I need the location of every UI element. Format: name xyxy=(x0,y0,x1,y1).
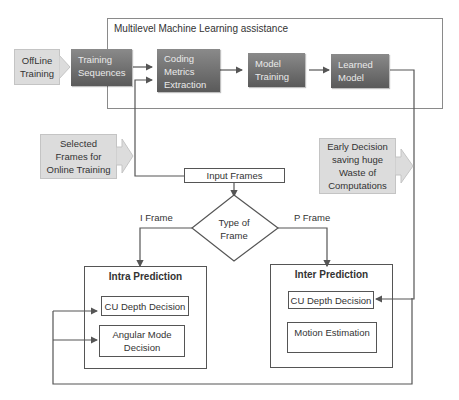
selected-frames-line-1: Selected xyxy=(60,137,97,150)
coding-metrics-line-3: Extraction xyxy=(164,78,213,91)
offline-training-box: OffLine Training xyxy=(14,49,60,85)
coding-metrics-extraction-box: Coding Metrics Extraction xyxy=(157,49,220,92)
input-frames-label: Input Frames xyxy=(207,169,263,182)
selected-frames-line-2: Frames for xyxy=(56,150,102,163)
early-decision-line-2: saving huge xyxy=(332,153,383,166)
early-decision-line-1: Early Decision xyxy=(327,140,388,153)
i-frame-label: I Frame xyxy=(140,211,173,224)
inter-prediction-title: Inter Prediction xyxy=(271,269,392,280)
model-training-line-2: Training xyxy=(255,70,298,83)
model-training-box: Model Training xyxy=(248,53,305,87)
model-training-line-1: Model xyxy=(255,57,298,70)
motion-estimation-box: Motion Estimation xyxy=(287,322,377,353)
learned-model-line-1: Learned xyxy=(338,58,382,71)
type-of-frame-line-1: Type of xyxy=(204,216,264,229)
selected-frames-line-3: Online Training xyxy=(47,163,111,176)
selected-frames-box: Selected Frames for Online Training xyxy=(40,134,117,179)
angular-mode-line-1: Angular Mode xyxy=(112,328,171,341)
intra-prediction-title: Intra Prediction xyxy=(85,271,206,282)
input-frames-box: Input Frames xyxy=(184,168,285,183)
early-decision-line-4: Computations xyxy=(328,179,387,192)
coding-metrics-line-2: Metrics xyxy=(164,65,213,78)
p-frame-label: P Frame xyxy=(294,211,330,224)
intra-cu-depth-decision-box: CU Depth Decision xyxy=(101,296,189,316)
early-decision-box: Early Decision saving huge Waste of Comp… xyxy=(319,138,396,194)
angular-mode-decision-box: Angular Mode Decision xyxy=(99,325,185,357)
inter-cu-depth-label: CU Depth Decision xyxy=(291,294,372,307)
inter-cu-depth-decision-box: CU Depth Decision xyxy=(288,291,374,309)
angular-mode-line-2: Decision xyxy=(124,341,160,354)
training-sequences-box: Training Sequences xyxy=(71,49,132,86)
type-of-frame-line-2: Frame xyxy=(204,229,264,242)
offline-training-arrow-icon xyxy=(59,55,71,79)
early-decision-arrow-icon xyxy=(395,149,415,183)
type-of-frame-label: Type of Frame xyxy=(204,216,264,242)
offline-training-label: OffLine Training xyxy=(15,54,59,80)
selected-frames-arrow-icon xyxy=(116,139,134,173)
learned-model-line-2: Model xyxy=(338,71,382,84)
coding-metrics-line-1: Coding xyxy=(164,52,213,65)
learned-model-box: Learned Model xyxy=(331,54,389,88)
motion-estimation-label: Motion Estimation xyxy=(294,326,370,339)
intra-cu-depth-label: CU Depth Decision xyxy=(105,300,186,313)
early-decision-line-3: Waste of xyxy=(339,166,376,179)
training-sequences-label: Training Sequences xyxy=(78,54,126,78)
